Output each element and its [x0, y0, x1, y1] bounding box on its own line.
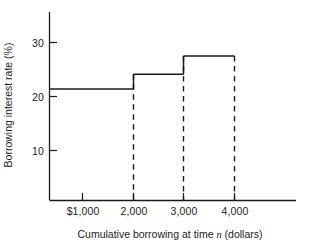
chart-plot-area: [0, 0, 312, 250]
x-axis-label-prefix: Cumulative borrowing at time: [78, 228, 217, 240]
x-tick-label-4000: 4,000: [222, 205, 249, 217]
x-axis-label: Cumulative borrowing at time n (dollars): [78, 228, 263, 240]
y-tick-label-30: 30: [24, 37, 44, 49]
x-tick-label-3000: 3,000: [171, 205, 198, 217]
y-axis-label: Borrowing interest rate (%): [2, 43, 14, 168]
x-tick-label-2000: 2,000: [121, 205, 148, 217]
x-axis-label-suffix: (dollars): [222, 228, 263, 240]
y-tick-label-10: 10: [24, 145, 44, 157]
y-tick-label-20: 20: [24, 91, 44, 103]
x-tick-label-1000: $1,000: [67, 205, 100, 217]
chart-figure: 30 20 10 $1,000 2,000 3,000 4,000 Borrow…: [0, 0, 312, 250]
